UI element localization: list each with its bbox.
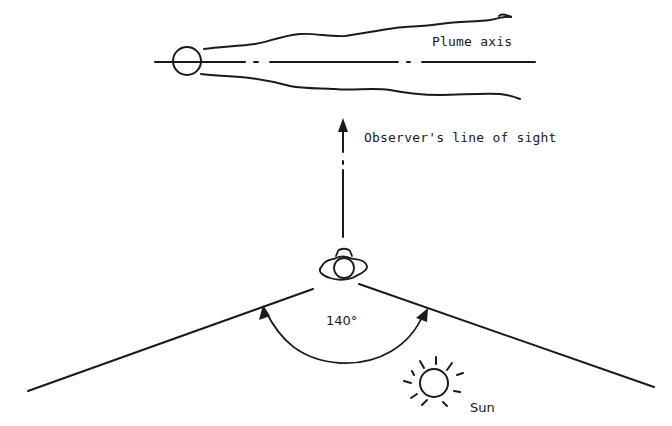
arrowhead-up-icon bbox=[338, 118, 348, 132]
sun-icon bbox=[404, 357, 463, 406]
plume-lower-edge bbox=[201, 74, 520, 99]
arc-arrowhead-right-icon bbox=[416, 308, 428, 322]
angle-label: 140° bbox=[326, 313, 357, 328]
line-of-sight-label: Observer's line of sight bbox=[364, 130, 557, 145]
right-boundary-line bbox=[359, 284, 654, 387]
plume-observation-diagram: Plume axis Observer's line of sight 140°… bbox=[0, 0, 672, 426]
sun-label: Sun bbox=[470, 400, 495, 415]
diagram-drawing bbox=[0, 0, 672, 426]
observer-person-icon bbox=[320, 249, 367, 280]
left-boundary-line bbox=[28, 289, 313, 391]
plume-axis-label: Plume axis bbox=[432, 34, 512, 49]
